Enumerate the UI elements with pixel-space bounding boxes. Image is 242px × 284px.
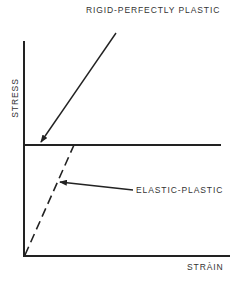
rigid-perfectly-plastic-label: RIGID-PERFECTLY PLASTIC xyxy=(86,5,220,15)
elastic-slope-dashed xyxy=(25,145,74,255)
diagram-canvas xyxy=(0,0,242,284)
elastic-plastic-label: ELASTIC-PLASTIC xyxy=(136,185,223,195)
stress-strain-diagram: RIGID-PERFECTLY PLASTIC ELASTIC-PLASTIC … xyxy=(0,0,242,284)
rigid-plastic-arrow xyxy=(41,33,116,142)
stress-axis-label: STRESS xyxy=(10,78,20,117)
elastic-plastic-arrow xyxy=(60,182,133,190)
strain-axis-label: STRÀIN xyxy=(187,262,224,272)
